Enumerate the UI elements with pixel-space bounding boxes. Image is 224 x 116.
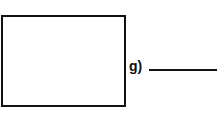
item-label: g) [129, 58, 142, 74]
drawing-box [1, 15, 126, 107]
answer-blank-line[interactable] [149, 69, 217, 71]
